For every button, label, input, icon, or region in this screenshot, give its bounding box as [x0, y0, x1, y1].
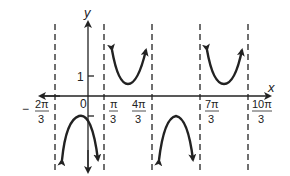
y-tick-label-1: 1: [77, 70, 84, 84]
x-tick-label-4pi-3: 4π 3: [132, 98, 146, 125]
tick-denominator: 3: [135, 113, 141, 125]
x-axis-label: x: [267, 80, 275, 95]
branch-2-up: [112, 50, 146, 84]
secant-graph: y x 0 1 − 2π 3 π 3 4π 3 7π 3 10π 3: [0, 0, 290, 176]
branch-1-down: [62, 116, 98, 160]
tick-denominator: 3: [38, 113, 44, 125]
tick-numerator: 7π: [205, 98, 219, 110]
tick-denominator: 3: [208, 113, 214, 125]
tick-numerator: 4π: [132, 98, 146, 110]
tick-numerator: 2π: [35, 98, 49, 110]
origin-label: 0: [80, 97, 87, 111]
tick-denominator: 3: [110, 113, 116, 125]
y-axis-label: y: [83, 5, 92, 20]
x-tick-label-7pi-3: 7π 3: [205, 98, 219, 125]
x-tick-label-10pi-3: 10π 3: [252, 98, 272, 125]
x-tick-label-neg-2pi-3: − 2π 3: [22, 98, 49, 125]
x-tick-label-pi-3: π 3: [109, 98, 118, 125]
tick-denominator: 3: [258, 113, 264, 125]
tick-numerator: 10π: [252, 98, 272, 110]
branch-4-up: [207, 50, 242, 84]
branch-3-down: [159, 116, 193, 160]
neg-sign: −: [22, 102, 29, 116]
tick-numerator: π: [110, 98, 118, 110]
